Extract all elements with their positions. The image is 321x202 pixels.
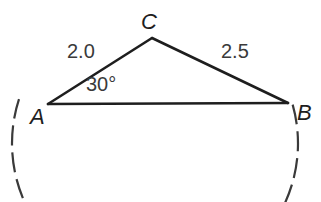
side-ab-line [48, 103, 288, 104]
vertex-label-a: A [30, 106, 45, 128]
side-cb-line [152, 38, 288, 103]
side-length-label-bc: 2.5 [221, 41, 249, 61]
geometry-figure: C A B 2.0 2.5 30° [0, 0, 321, 202]
figure-canvas [0, 0, 321, 202]
side-length-label-ac: 2.0 [67, 41, 95, 61]
vertex-label-c: C [141, 11, 157, 33]
vertex-label-b: B [297, 102, 312, 124]
angle-label-a: 30° [86, 74, 116, 94]
dashed-arc [12, 99, 298, 202]
